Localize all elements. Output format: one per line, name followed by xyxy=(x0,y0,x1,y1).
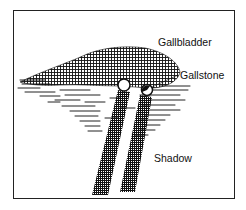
gallstone-label: Gallstone xyxy=(180,69,224,81)
gallbladder-label: Gallbladder xyxy=(158,36,212,48)
gallstone-left xyxy=(118,79,130,91)
ultrasound-illustration xyxy=(0,0,246,210)
gallbladder-shape xyxy=(20,47,180,88)
shadow-label: Shadow xyxy=(154,152,192,164)
tissue-texture xyxy=(18,80,190,135)
